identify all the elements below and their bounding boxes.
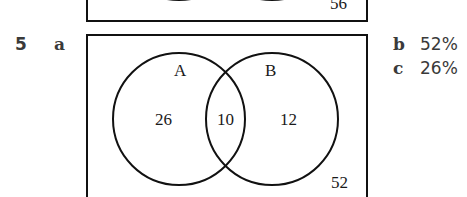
outside-value: 52	[331, 173, 348, 193]
part-b-label: b	[393, 34, 405, 54]
set-a-label: A	[174, 61, 186, 81]
previous-outside-value: 56	[330, 0, 347, 14]
part-a-label: a	[54, 34, 65, 54]
intersection-value: 10	[217, 110, 234, 130]
question-number: 5	[15, 34, 27, 54]
part-b-answer: 52%	[420, 34, 458, 54]
previous-universal-set-box	[87, 0, 367, 21]
part-c-answer: 26%	[420, 58, 458, 78]
diagrams-canvas	[0, 0, 467, 197]
only-a-value: 26	[155, 110, 172, 130]
only-b-value: 12	[280, 110, 297, 130]
part-c-label: c	[393, 58, 403, 78]
set-b-label: B	[265, 61, 276, 81]
previous-venn-diagram	[87, 0, 367, 21]
